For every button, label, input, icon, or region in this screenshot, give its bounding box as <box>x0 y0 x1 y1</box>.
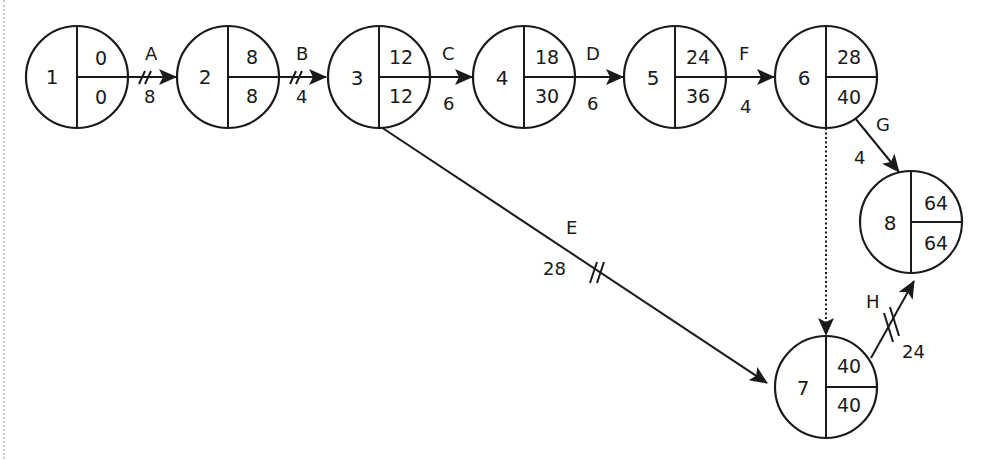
node-number: 1 <box>46 65 59 89</box>
earliest-time: 24 <box>686 46 710 68</box>
node-3: 3 12 12 <box>328 26 430 128</box>
latest-time: 40 <box>837 394 861 416</box>
node-number: 3 <box>351 66 364 90</box>
latest-time: 12 <box>389 85 413 107</box>
arrow-e <box>381 127 767 383</box>
node-7: 7 40 40 <box>775 336 877 438</box>
activity-duration: 6 <box>443 93 454 114</box>
earliest-time: 64 <box>924 192 948 214</box>
activity-label: H <box>866 291 880 312</box>
node-4: 4 18 30 <box>473 26 575 128</box>
node-number: 7 <box>797 376 810 400</box>
activity-duration: 24 <box>902 341 925 362</box>
latest-time: 36 <box>686 85 710 107</box>
earliest-time: 0 <box>95 47 107 69</box>
network-diagram: A 8 B 4 C 6 D 6 F 4 G 4 <box>0 0 995 459</box>
node-number: 8 <box>884 211 897 235</box>
latest-time: 30 <box>535 85 559 107</box>
node-8: 8 64 64 <box>860 171 962 273</box>
node-6: 6 28 40 <box>775 26 877 128</box>
activity-duration: 8 <box>144 86 155 107</box>
activity-h: H 24 <box>866 281 925 362</box>
earliest-time: 12 <box>389 46 413 68</box>
latest-time: 64 <box>924 232 948 254</box>
node-2: 2 8 8 <box>177 26 279 128</box>
activity-f: F 4 <box>725 43 774 117</box>
activity-label: G <box>876 114 890 135</box>
node-number: 6 <box>798 66 811 90</box>
earliest-time: 40 <box>837 355 861 377</box>
activity-label: A <box>145 43 158 64</box>
activity-duration: 4 <box>740 96 751 117</box>
earliest-time: 28 <box>837 46 861 68</box>
latest-time: 8 <box>246 85 258 107</box>
node-1: 1 0 0 <box>26 26 128 128</box>
activity-duration: 28 <box>543 258 566 279</box>
latest-time: 0 <box>95 86 107 108</box>
activity-label: C <box>442 43 455 64</box>
node-number: 5 <box>647 66 660 90</box>
activity-duration: 4 <box>854 147 865 168</box>
activity-c: C 6 <box>429 43 472 114</box>
node-number: 2 <box>199 65 212 89</box>
earliest-time: 18 <box>535 46 559 68</box>
activity-label: E <box>566 217 577 238</box>
activity-e: E 28 <box>381 127 767 383</box>
activity-label: B <box>296 43 308 64</box>
earliest-time: 8 <box>246 46 258 68</box>
activity-g: G 4 <box>854 114 899 172</box>
activity-duration: 6 <box>587 93 598 114</box>
activity-b: B 4 <box>278 43 326 107</box>
node-number: 4 <box>496 66 509 90</box>
node-5: 5 24 36 <box>624 26 726 128</box>
activity-label: F <box>739 43 749 64</box>
activity-label: D <box>586 43 600 64</box>
latest-time: 40 <box>837 86 861 108</box>
activity-d: D 6 <box>574 43 623 114</box>
activity-a: A 8 <box>127 43 176 107</box>
activity-duration: 4 <box>296 86 307 107</box>
